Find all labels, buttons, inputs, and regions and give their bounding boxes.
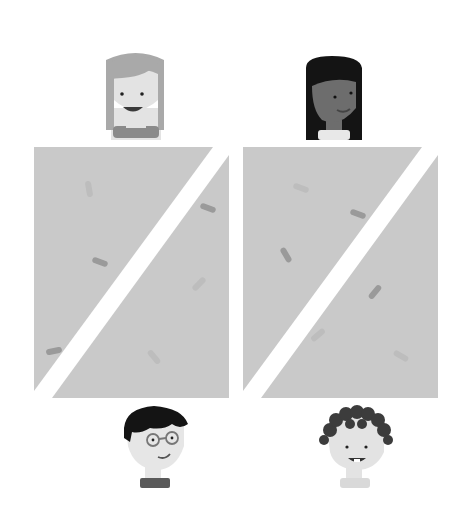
panel-right	[243, 147, 438, 398]
illustration-stage	[0, 0, 464, 515]
person-top-left	[106, 53, 164, 140]
person-bottom-left	[124, 406, 188, 488]
person-bottom-right	[319, 405, 393, 488]
panel-left	[34, 147, 229, 398]
illustration	[0, 0, 464, 515]
person-top-right	[306, 56, 362, 140]
